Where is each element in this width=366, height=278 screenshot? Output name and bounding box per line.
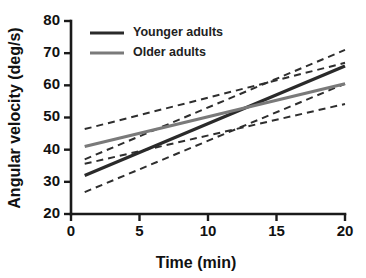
x-tick-label: 10 — [200, 222, 217, 239]
legend-label-1: Older adults — [133, 45, 206, 59]
angular-velocity-line-chart: 20304050607080 05101520 Time (min) Angul… — [0, 0, 366, 278]
legend-label-0: Younger adults — [133, 25, 223, 39]
x-tick-label: 20 — [337, 222, 354, 239]
x-tick-label: 5 — [135, 222, 143, 239]
x-axis-title: Time (min) — [156, 254, 237, 271]
chart-figure: 20304050607080 05101520 Time (min) Angul… — [0, 0, 366, 278]
y-tick-label: 50 — [43, 107, 60, 124]
y-tick-label: 60 — [43, 75, 60, 92]
y-tick-label: 20 — [43, 204, 60, 221]
y-tick-label: 80 — [43, 11, 60, 28]
y-axis-title: Angular velocity (deg/s) — [6, 27, 23, 208]
y-tick-label: 40 — [43, 140, 60, 157]
x-tick-label: 15 — [268, 222, 285, 239]
x-tick-label: 0 — [67, 222, 75, 239]
y-tick-label: 30 — [43, 172, 60, 189]
y-tick-label: 70 — [43, 43, 60, 60]
